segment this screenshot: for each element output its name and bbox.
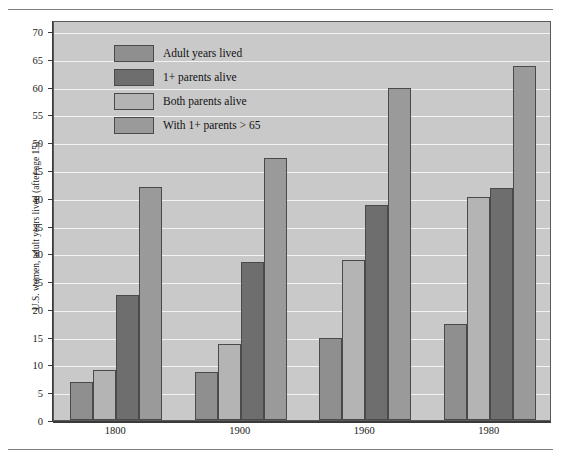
- bar: [93, 370, 116, 420]
- y-axis-tick-label: 25: [33, 277, 44, 288]
- legend-item-label: Adult years lived: [163, 47, 242, 59]
- y-axis-tick-label: 60: [33, 82, 44, 93]
- bar: [365, 205, 388, 420]
- bar: [444, 324, 467, 420]
- y-axis-tick-label: 35: [33, 221, 44, 232]
- y-axis-tick-label: 50: [33, 138, 44, 149]
- bar: [467, 197, 490, 420]
- y-axis-tick-label: 40: [33, 193, 44, 204]
- top-rule: [8, 9, 553, 10]
- legend-item: 1+ parents alive: [114, 68, 237, 86]
- x-axis-tick-label: 1800: [105, 425, 126, 436]
- bar: [70, 382, 93, 420]
- x-axis-tick-label: 1900: [229, 425, 250, 436]
- bar: [490, 188, 513, 420]
- legend-swatch-icon: [114, 45, 154, 62]
- legend-swatch-icon: [114, 93, 154, 110]
- bar: [139, 187, 162, 420]
- bar: [116, 295, 139, 420]
- y-axis-title-wrap: U.S. women, adult years lived (after age…: [14, 21, 32, 421]
- legend-item-label: With 1+ parents > 65: [163, 119, 260, 131]
- y-axis-tick-label: 30: [33, 249, 44, 260]
- y-axis-tick-label: 65: [33, 54, 44, 65]
- legend-item: Adult years lived: [114, 44, 242, 62]
- legend-swatch-icon: [114, 117, 154, 134]
- legend-item: With 1+ parents > 65: [114, 116, 260, 134]
- bar: [342, 260, 365, 420]
- bar: [241, 262, 264, 420]
- y-axis-tick-label: 20: [33, 304, 44, 315]
- y-axis-tick-label: 15: [33, 332, 44, 343]
- top-caption: [0, 0, 561, 7]
- bar: [218, 344, 241, 420]
- legend-item-label: 1+ parents alive: [163, 71, 237, 83]
- y-axis-tick-label: 70: [33, 27, 44, 38]
- y-axis-tick-label: 0: [38, 416, 43, 427]
- bar: [264, 158, 287, 420]
- y-axis-tick-label: 5: [38, 388, 43, 399]
- bottom-rule: [8, 449, 553, 450]
- legend-swatch-icon: [114, 69, 154, 86]
- y-axis-tick-label: 10: [33, 360, 44, 371]
- figure-page: U.S. women, adult years lived (after age…: [0, 0, 561, 460]
- y-axis: 0510152025303540455055606570: [45, 21, 53, 421]
- x-axis-tick-label: 1980: [478, 425, 499, 436]
- legend-item-label: Both parents alive: [163, 95, 247, 107]
- bar: [195, 372, 218, 420]
- y-axis-tick-label: 55: [33, 110, 44, 121]
- bar: [513, 66, 536, 420]
- plot-area: Adult years lived1+ parents aliveBoth pa…: [53, 21, 551, 421]
- bar: [388, 88, 411, 420]
- x-axis-tick-label: 1960: [354, 425, 375, 436]
- bar: [319, 338, 342, 420]
- y-axis-tick-label: 45: [33, 166, 44, 177]
- legend-item: Both parents alive: [114, 92, 247, 110]
- x-axis: [53, 421, 551, 423]
